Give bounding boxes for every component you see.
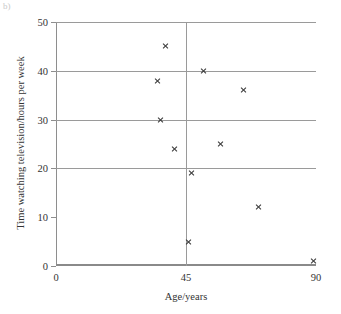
y-axis-tick-label: 20 bbox=[38, 163, 49, 174]
data-point-marker bbox=[255, 204, 262, 211]
data-point-marker bbox=[162, 43, 169, 50]
gridline-vertical bbox=[186, 22, 187, 266]
data-point-marker bbox=[240, 87, 247, 94]
y-axis-tick-label: 10 bbox=[38, 212, 49, 223]
y-axis-line bbox=[56, 22, 57, 266]
y-axis-tick bbox=[51, 71, 56, 72]
x-axis-title: Age/years bbox=[56, 291, 316, 302]
data-point-marker bbox=[188, 170, 195, 177]
y-axis-tick-label: 40 bbox=[38, 65, 49, 76]
y-axis-tick bbox=[51, 266, 56, 267]
data-point-marker bbox=[154, 77, 161, 84]
plot-area: 0102030405004590 bbox=[56, 22, 316, 266]
y-axis-tick-label: 30 bbox=[38, 114, 49, 125]
data-point-marker bbox=[171, 145, 178, 152]
y-axis-title: Time watching television/hours per week bbox=[13, 18, 29, 268]
y-axis-tick bbox=[51, 217, 56, 218]
y-axis-tick-label: 50 bbox=[38, 17, 49, 28]
y-axis-tick bbox=[51, 22, 56, 23]
y-axis-tick bbox=[51, 120, 56, 121]
data-point-marker bbox=[310, 258, 317, 265]
x-axis-tick-label: 45 bbox=[181, 272, 192, 283]
y-axis-tick bbox=[51, 168, 56, 169]
x-axis-tick-label: 0 bbox=[53, 272, 58, 283]
scatter-plot-figure: b) Time watching television/hours per we… bbox=[0, 0, 341, 314]
x-axis-tick-label: 90 bbox=[311, 272, 322, 283]
data-point-marker bbox=[157, 116, 164, 123]
data-point-marker bbox=[217, 141, 224, 148]
y-axis-tick-label: 0 bbox=[43, 261, 48, 272]
part-label: b) bbox=[3, 1, 11, 11]
data-point-marker bbox=[200, 67, 207, 74]
data-point-marker bbox=[185, 238, 192, 245]
